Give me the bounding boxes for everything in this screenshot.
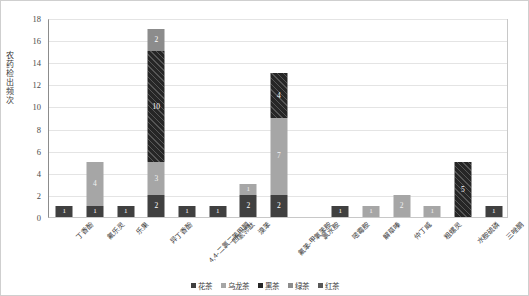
bar-stack[interactable]: 1 [209, 206, 226, 217]
bar-segment[interactable]: 10 [148, 51, 165, 162]
x-tick-label: 粗螺灵 [441, 219, 463, 241]
bar-slot[interactable] [294, 20, 325, 217]
bar-stack[interactable]: 21 [240, 184, 257, 217]
bar-segment[interactable]: 2 [240, 195, 257, 217]
legend-item[interactable]: 红茶 [318, 280, 339, 291]
bar-value-label: 1 [339, 208, 343, 215]
x-tick-label: 水胺硫磷 [474, 219, 501, 246]
bar-stack[interactable]: 1 [178, 206, 195, 217]
y-tick-4: 4 [37, 169, 41, 179]
x-tick-label: 乐果 [133, 219, 150, 236]
y-tick-10: 10 [33, 102, 42, 112]
bar-value-label: 1 [124, 208, 128, 215]
legend-item[interactable]: 乌龙茶 [221, 280, 249, 291]
bar-slot[interactable]: 2 [386, 20, 417, 217]
bar-stack[interactable]: 2 [393, 195, 410, 217]
legend-label: 花茶 [198, 280, 212, 291]
bar-segment[interactable]: 2 [393, 195, 410, 217]
legend-item[interactable]: 绿茶 [288, 280, 309, 291]
bar-segment[interactable]: 7 [270, 118, 287, 195]
bar-slot[interactable]: 1 [49, 20, 80, 217]
bar-value-label: 4 [93, 180, 97, 188]
bar-slot[interactable]: 23102 [141, 20, 172, 217]
bar-segment[interactable]: 4 [270, 73, 287, 117]
bar-slot[interactable]: 1 [478, 20, 509, 217]
bar-stack[interactable]: 23102 [148, 29, 165, 217]
bar-stack[interactable]: 5 [454, 162, 471, 217]
bar-segment[interactable]: 1 [424, 206, 441, 217]
chart-legend: 花茶乌龙茶黑茶绿茶红茶 [1, 280, 528, 291]
bar-value-label: 3 [154, 175, 158, 183]
bar-value-label: 5 [461, 186, 465, 194]
y-tick-16: 16 [33, 36, 42, 46]
plot-area: 1141231021121274112151 [48, 19, 508, 218]
bar-segment[interactable]: 1 [362, 206, 379, 217]
legend-item[interactable]: 花茶 [191, 280, 212, 291]
bar-slot[interactable]: 1 [417, 20, 448, 217]
bar-segment[interactable]: 2 [148, 29, 165, 51]
bar-segment[interactable]: 1 [178, 206, 195, 217]
bar-value-label: 1 [185, 208, 189, 215]
bar-segment[interactable]: 1 [86, 206, 103, 217]
y-tick-8: 8 [37, 125, 41, 135]
y-tick-2: 2 [37, 191, 41, 201]
bar-segment[interactable]: 1 [485, 206, 502, 217]
y-tick-0: 0 [37, 213, 41, 223]
bar-stack[interactable]: 14 [86, 162, 103, 217]
bar-segment[interactable]: 1 [209, 206, 226, 217]
bar-value-label: 1 [216, 208, 220, 215]
bar-segment[interactable]: 1 [332, 206, 349, 217]
y-tick-18: 18 [33, 14, 42, 24]
x-tick-label: 异丁香酚 [168, 219, 195, 246]
bar-value-label: 1 [247, 186, 251, 193]
bar-value-label: 1 [93, 208, 97, 215]
bar-slot[interactable]: 274 [264, 20, 295, 217]
bar-value-label: 4 [277, 92, 281, 100]
legend-label: 绿茶 [295, 280, 309, 291]
y-tick-14: 14 [33, 58, 42, 68]
legend-item[interactable]: 黑茶 [258, 280, 279, 291]
bar-segment[interactable]: 1 [117, 206, 134, 217]
bar-segment[interactable]: 1 [240, 184, 257, 195]
legend-label: 乌龙茶 [228, 280, 249, 291]
bar-segment[interactable]: 2 [148, 195, 165, 217]
chart-page: 农药检出频次 024681012141618 11412310211212741… [0, 0, 529, 296]
bar-slot[interactable]: 1 [202, 20, 233, 217]
legend-swatch-icon [288, 283, 293, 288]
bar-value-label: 2 [277, 202, 281, 210]
legend-label: 红茶 [325, 280, 339, 291]
bar-slot[interactable]: 1 [325, 20, 356, 217]
x-tick-label: 仲丁威 [411, 219, 433, 241]
bar-stack[interactable]: 1 [56, 206, 73, 217]
bar-stack[interactable]: 1 [117, 206, 134, 217]
bar-value-label: 10 [153, 103, 161, 111]
legend-swatch-icon [318, 283, 323, 288]
bar-stack[interactable]: 1 [332, 206, 349, 217]
bar-slot[interactable]: 21 [233, 20, 264, 217]
bar-value-label: 1 [369, 208, 373, 215]
bar-value-label: 1 [63, 208, 67, 215]
bar-stack[interactable]: 274 [270, 73, 287, 217]
bar-stack[interactable]: 1 [362, 206, 379, 217]
bar-slot[interactable]: 1 [172, 20, 203, 217]
bar-segment[interactable]: 5 [454, 162, 471, 217]
y-tick-12: 12 [33, 80, 42, 90]
y-tick-6: 6 [37, 147, 41, 157]
bar-segment[interactable]: 4 [86, 162, 103, 206]
x-tick-label: 三唑酮 [503, 219, 525, 241]
bar-stack[interactable]: 1 [424, 206, 441, 217]
y-axis-tick-labels: 024681012141618 [1, 19, 46, 218]
bar-slot[interactable]: 1 [110, 20, 141, 217]
bar-series-container: 1141231021121274112151 [49, 20, 507, 217]
bar-slot[interactable]: 14 [80, 20, 111, 217]
bar-segment[interactable]: 1 [56, 206, 73, 217]
bar-stack[interactable]: 1 [485, 206, 502, 217]
bar-segment[interactable]: 3 [148, 162, 165, 195]
legend-swatch-icon [221, 283, 226, 288]
bar-slot[interactable]: 1 [356, 20, 387, 217]
bar-slot[interactable]: 5 [448, 20, 479, 217]
x-tick-label: 丁香酚 [73, 219, 95, 241]
bar-segment[interactable]: 2 [270, 195, 287, 217]
bar-value-label: 1 [492, 208, 496, 215]
bar-value-label: 2 [154, 36, 158, 44]
